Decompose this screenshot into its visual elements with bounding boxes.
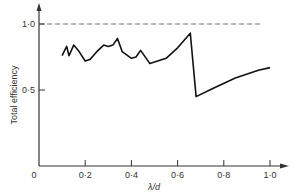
x-tick-label: 0·2: [79, 170, 92, 180]
x-tick-label: 0: [31, 170, 36, 180]
y-axis-label: Total efficiency: [9, 65, 19, 124]
x-tick-label: 0·6: [171, 170, 184, 180]
x-tick-label: 1·0: [263, 170, 276, 180]
y-axis-arrow-icon: [37, 3, 42, 11]
y-tick-label: 1·0: [22, 19, 35, 29]
y-ticks: 0·51·0: [22, 19, 45, 95]
x-axis-label: λ/d: [147, 182, 161, 192]
efficiency-chart: 00·20·40·60·81·0 0·51·0 λ/d Total effici…: [0, 0, 297, 196]
x-tick-label: 0·4: [125, 170, 138, 180]
axes: [37, 3, 290, 169]
y-tick-label: 0·5: [22, 85, 35, 95]
x-ticks: 00·20·40·60·81·0: [31, 160, 276, 180]
x-axis-arrow-icon: [280, 164, 289, 169]
efficiency-curve: [62, 33, 270, 96]
x-tick-label: 0·8: [217, 170, 230, 180]
